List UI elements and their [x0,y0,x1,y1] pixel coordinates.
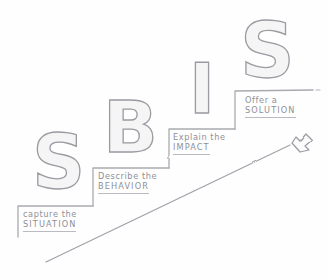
step-1-line2: SITUATION [23,219,76,231]
step-2-line1: Describe the [98,171,157,181]
step-3-line1: Explain the [173,132,226,142]
step-3-line2: IMPACT [173,142,210,154]
arrow-head-icon [292,134,312,152]
letter-s-situation: S [32,119,85,205]
step-4-line2: SOLUTION [245,105,296,117]
step-1-line1: capture the [23,209,77,219]
step-2-line2: BEHAVIOR [98,181,149,193]
step-label-solution: Offer a SOLUTION [245,95,296,118]
sketch-drawing: S B I S [0,0,328,280]
letter-i-impact: I [189,48,215,130]
letter-b-behavior: B [103,85,158,169]
step-label-situation: capture the SITUATION [23,209,77,232]
letter-s-solution: S [240,6,295,95]
sketch-canvas: S B I S capture the SITUATION Describe t… [0,0,328,280]
step-label-impact: Explain the IMPACT [173,132,226,155]
step-label-behavior: Describe the BEHAVIOR [98,171,157,194]
step-4-line1: Offer a [245,95,296,105]
